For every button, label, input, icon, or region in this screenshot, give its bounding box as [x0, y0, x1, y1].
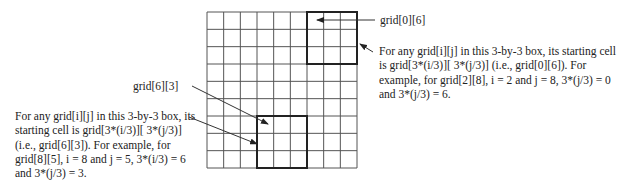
note-right-box: For any grid[i][j] in this 3-by-3 box, i…: [379, 44, 616, 101]
note-left-box: For any grid[i][j] in this 3-by-3 box, i…: [15, 109, 195, 180]
arrow-top-box: [360, 44, 373, 52]
arrows: [189, 20, 375, 144]
label-grid-0-6: grid[0][6]: [380, 13, 425, 27]
arrow-bottom-box: [189, 117, 257, 144]
label-grid-6-3: grid[6][3]: [133, 79, 178, 93]
grid-9x9: [207, 12, 357, 168]
box-bottom-middle: [257, 116, 307, 168]
